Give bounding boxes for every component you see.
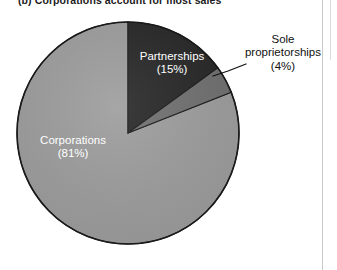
pie-label-corporations-name: Corporations: [40, 134, 106, 146]
pie-label-partnerships-name: Partnerships: [140, 50, 205, 62]
pie-label-sole-proprietorships-value: (4%): [233, 60, 333, 73]
pie-label-corporations: Corporations (81%): [18, 134, 128, 161]
pie-label-partnerships-value: (15%): [126, 63, 218, 76]
pie-label-sole-proprietorships-name-line1: Sole: [271, 33, 294, 45]
pie-label-corporations-value: (81%): [18, 147, 128, 160]
pie-label-sole-proprietorships-name-line2: proprietorships: [233, 46, 333, 59]
pie-label-sole-proprietorships: Sole proprietorships (4%): [233, 33, 333, 73]
pie-label-partnerships: Partnerships (15%): [126, 50, 218, 77]
pie-chart-figure: (b) Corporations account for most sales …: [0, 0, 337, 270]
